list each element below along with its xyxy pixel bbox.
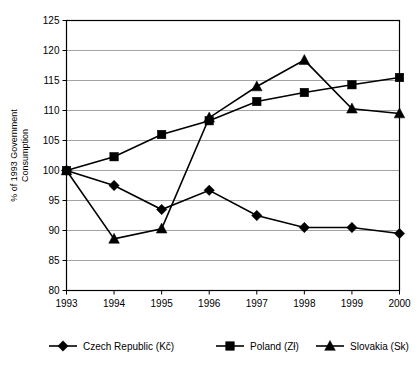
y-axis-label-line2: Consumption	[20, 129, 30, 182]
data-point-s2-1999	[348, 80, 357, 89]
y-tick-label-90: 90	[48, 225, 60, 236]
x-tick-label-1995: 1995	[151, 298, 174, 309]
x-tick-label-1997: 1997	[246, 298, 269, 309]
y-tick-label-105: 105	[43, 135, 60, 146]
x-tick-label-1996: 1996	[198, 298, 221, 309]
chart-canvas: 12512011511010510095908580 1993199419951…	[0, 0, 418, 365]
y-tick-label-125: 125	[43, 15, 60, 26]
x-tick-label-2000: 2000	[388, 298, 411, 309]
legend-label-3: Slovakia (Sk)	[350, 341, 409, 352]
y-axis-label-line1: % of 1993 Government	[9, 109, 19, 202]
x-tick-label-1993: 1993	[55, 298, 78, 309]
y-tick-label-80: 80	[48, 285, 60, 296]
line-chart: 12512011511010510095908580 1993199419951…	[0, 0, 418, 365]
y-tick-label-120: 120	[43, 45, 60, 56]
y-tick-label-115: 115	[44, 75, 60, 86]
data-point-s2-1997	[253, 97, 261, 106]
x-tick-label-1998: 1998	[293, 298, 316, 309]
data-point-s2-2000	[395, 73, 404, 82]
y-tick-label-110: 110	[44, 105, 60, 116]
data-point-s2-1998	[300, 88, 309, 97]
y-tick-label-95: 95	[48, 195, 60, 206]
y-tick-label-85: 85	[48, 255, 60, 266]
legend-marker-square	[226, 342, 235, 351]
x-tick-label-1999: 1999	[341, 298, 364, 309]
data-point-s2-1994	[110, 152, 119, 161]
chart-background	[0, 0, 418, 365]
chart-legend: Czech Republic (Kč)Poland (Zł)Slovakia (…	[49, 340, 409, 351]
legend-item-3[interactable]: Slovakia (Sk)	[316, 340, 409, 351]
legend-label-2: Poland (Zł)	[250, 341, 299, 352]
legend-label-1: Czech Republic (Kč)	[83, 341, 174, 352]
legend-item-2[interactable]: Poland (Zł)	[216, 341, 299, 352]
y-tick-label-100: 100	[43, 165, 60, 176]
data-point-s2-1995	[157, 130, 166, 139]
x-tick-label-1994: 1994	[103, 298, 126, 309]
